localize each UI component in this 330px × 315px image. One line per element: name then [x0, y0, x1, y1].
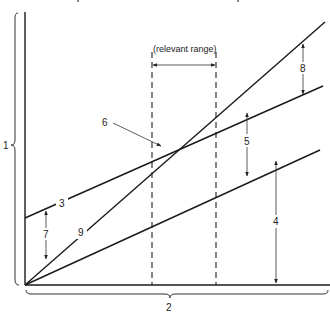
top-edge-mark [237, 0, 239, 2]
revenue-cost-gap-label: 8 [300, 63, 306, 74]
break-even-diagram: 1 2 (relevant range) 3 9 6 7 8 5 4 [0, 0, 330, 315]
x-axis-brace [26, 290, 328, 298]
profit-gap-label: 5 [244, 136, 250, 147]
fixed-cost-label: 7 [43, 229, 49, 240]
break-even-pointer [113, 123, 161, 146]
variable-cost-height-label: 4 [273, 216, 279, 227]
relevant-range-label: (relevant range) [153, 44, 217, 54]
total-cost-line-label: 3 [59, 198, 65, 209]
total-revenue-line-label: 9 [78, 227, 84, 238]
top-edge-mark [77, 0, 79, 2]
y-axis-label: 1 [3, 140, 9, 151]
total-revenue-line [25, 22, 325, 285]
y-axis-brace [11, 13, 19, 285]
x-axis-label: 2 [166, 302, 172, 313]
total-cost-line [25, 86, 323, 218]
break-even-label: 6 [102, 117, 108, 128]
